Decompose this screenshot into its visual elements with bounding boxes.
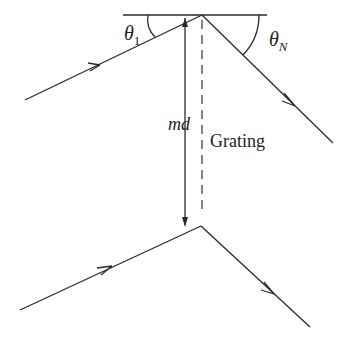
theta-1-label: θ1 bbox=[124, 22, 140, 48]
grating-label: Grating bbox=[210, 131, 265, 151]
upper-diffracted-ray bbox=[202, 15, 333, 143]
theta-n-arc bbox=[243, 15, 259, 55]
theta-1-arc bbox=[148, 15, 155, 37]
upper-incident-ray bbox=[25, 15, 202, 100]
lower-diffracted-ray bbox=[201, 226, 310, 327]
theta-n-label: θN bbox=[269, 28, 289, 54]
md-arrow-down-icon bbox=[182, 217, 188, 227]
grating-diagram: θ1 θN md Grating bbox=[0, 0, 346, 344]
md-label: md bbox=[168, 114, 191, 134]
